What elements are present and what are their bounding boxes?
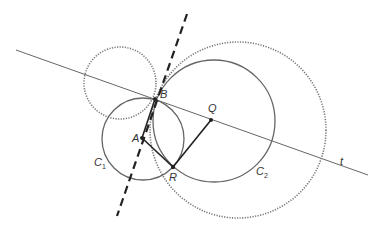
point-q [209,118,213,122]
label-q: Q [208,102,217,114]
circle-c2 [153,60,275,182]
point-r [171,165,175,169]
label-t: t [340,155,344,167]
segment-r-q [173,120,211,167]
label-a: A [131,132,139,144]
line-t [16,50,368,175]
point-b [153,97,157,101]
label-r: R [169,171,177,183]
label-b: B [160,88,167,100]
small-dotted-circle [84,47,156,119]
point-a [140,136,144,140]
large-dotted-circle [150,42,326,218]
label-c2: C2 [256,165,268,179]
label-c1: C1 [94,156,106,170]
geometry-diagram: B Q A R C1 C2 t [0,0,383,230]
